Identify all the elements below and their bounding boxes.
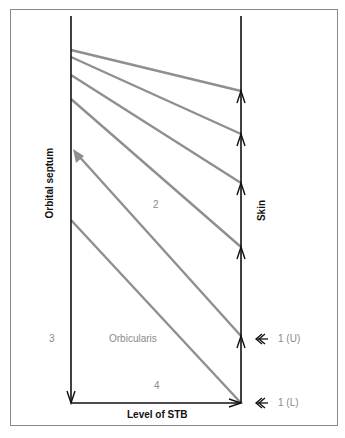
skin-label: Skin	[256, 196, 267, 226]
fibre-arrow-line	[77, 154, 241, 336]
fibre-line	[71, 50, 241, 91]
region-3-label: 3	[49, 333, 55, 344]
level-of-stb-label: Level of STB	[127, 409, 188, 420]
orbicularis-label: Orbicularis	[109, 333, 157, 344]
region-4-label: 4	[154, 380, 160, 391]
marker-lower-label: 1 (L)	[278, 397, 299, 408]
fibre-lines	[71, 50, 241, 403]
fibre-line	[71, 220, 241, 403]
region-2-label: 2	[153, 199, 159, 210]
orbital-septum-label: Orbital septum	[44, 149, 55, 219]
eyelid-lamellae-diagram	[0, 0, 345, 438]
marker-arrow-upper	[256, 334, 268, 344]
fibre-line	[71, 75, 241, 183]
marker-arrow-lower	[256, 398, 268, 408]
marker-upper-label: 1 (U)	[278, 333, 300, 344]
